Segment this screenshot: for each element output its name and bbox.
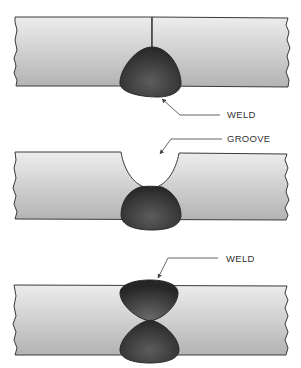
weld-label-3: WELD [226,253,255,264]
weld-leader-1 [162,99,220,115]
panel-groove-weld: GROOVE [13,133,289,230]
weld-label-1: WELD [227,109,256,120]
panel-square-butt-weld: WELD [14,17,290,120]
groove-label: GROOVE [227,133,271,144]
weld-diagram: WELD GROOVE WELD [0,0,301,368]
groove-leader [160,139,222,154]
panel-double-sided-weld: WELD [13,253,288,363]
weld-leader-3 [158,258,218,278]
